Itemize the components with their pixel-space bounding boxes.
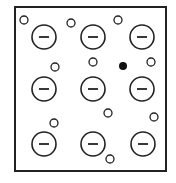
small-particle: [51, 63, 59, 71]
filled-particle: [119, 62, 127, 70]
small-particle: [67, 19, 75, 27]
small-particle: [50, 119, 58, 127]
small-particle: [147, 58, 155, 66]
negative-ion: [32, 25, 56, 49]
ion-lattice-diagram: [0, 0, 176, 183]
small-particle: [106, 155, 114, 163]
small-particle: [104, 109, 112, 117]
negative-ion: [81, 77, 105, 101]
negative-ion: [81, 132, 105, 156]
negative-ion: [130, 25, 154, 49]
negative-ions-group: [32, 25, 155, 156]
negative-ion: [130, 77, 154, 101]
small-particle: [114, 16, 122, 24]
negative-ion: [32, 77, 56, 101]
negative-ion: [81, 25, 105, 49]
small-particle: [20, 16, 28, 24]
negative-ion: [131, 132, 155, 156]
negative-ion: [32, 132, 56, 156]
small-particle: [150, 113, 158, 121]
small-particle: [89, 58, 97, 66]
